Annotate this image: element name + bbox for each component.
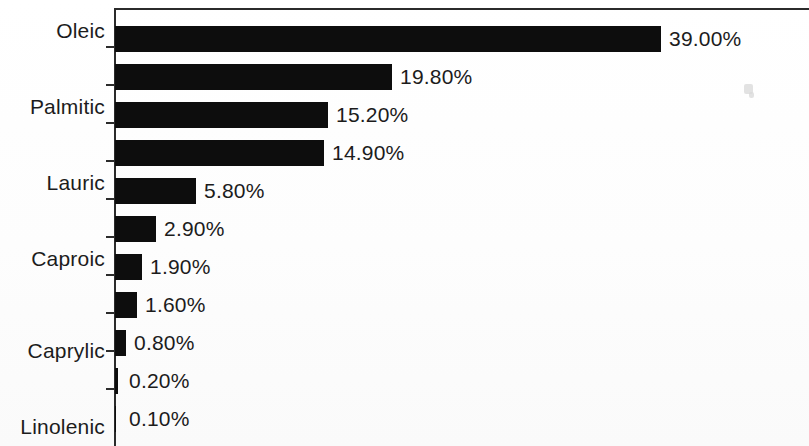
bar-track [115,254,809,280]
bar [115,330,126,356]
bar-row: 1.90% [115,248,809,286]
axis-tick [106,350,115,352]
bar-track [115,406,809,432]
bar-value-label: 39.00% [669,27,741,51]
bar [115,178,196,204]
bar-track [115,140,809,166]
bar-chart: 39.00% 19.80% 15.20% 14.90% 5.80% [0,0,809,446]
bar [115,216,156,242]
axis-tick [106,84,115,86]
axis-tick [106,312,115,314]
bar-value-label: 0.20% [129,369,190,393]
axis-tick [106,160,115,162]
bar [115,26,661,52]
bar-row: 5.80% [115,172,809,210]
bar-row: 19.80% [115,58,809,96]
bar-value-label: 0.10% [129,407,190,431]
category-label-linolenic: Linolenic [20,415,105,439]
bar-value-label: 15.20% [336,103,408,127]
bar-track [115,102,809,128]
axis-tick [106,198,115,200]
bar-value-label: 5.80% [204,179,265,203]
bar [115,64,392,90]
axis-tick [106,122,115,124]
bar-value-label: 2.90% [164,217,225,241]
bar-row: 1.60% [115,286,809,324]
bar-value-label: 14.90% [332,141,404,165]
category-label-caproic: Caproic [31,247,105,271]
bar-row: 0.80% [115,324,809,362]
bar [115,368,118,394]
category-label-caprylic: Caprylic [28,339,105,363]
bar [115,140,324,166]
bar-value-label: 1.90% [150,255,211,279]
axis-tick [106,274,115,276]
bar-track [115,368,809,394]
bar [115,254,142,280]
category-label-lauric: Lauric [47,171,105,195]
bar-row: 15.20% [115,96,809,134]
bar [115,102,328,128]
axis-tick [106,46,115,48]
bar-value-label: 19.80% [400,65,472,89]
category-label-palmitic: Palmitic [30,95,105,119]
bar-row: 0.10% [115,400,809,438]
axis-tick [106,388,115,390]
bar-row: 0.20% [115,362,809,400]
category-label-oleic: Oleic [56,19,105,43]
bar-track [115,292,809,318]
bar-row: 14.90% [115,134,809,172]
axis-tick [106,236,115,238]
bar-row: 2.90% [115,210,809,248]
bar-value-label: 1.60% [145,293,206,317]
bar-row: 39.00% [115,20,809,58]
bar [115,292,137,318]
bar-track [115,330,809,356]
plot-area: 39.00% 19.80% 15.20% 14.90% 5.80% [115,8,809,446]
bar [115,406,116,432]
bar-value-label: 0.80% [134,331,195,355]
